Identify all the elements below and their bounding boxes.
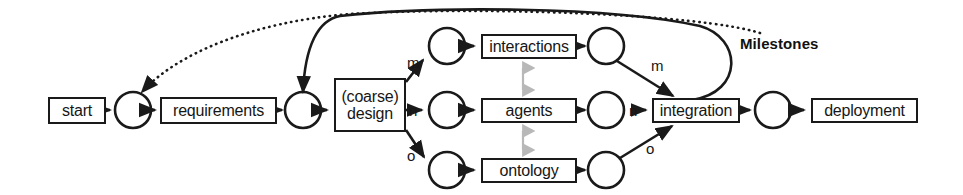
node-requirements[interactable]: requirements [160,97,277,124]
milestone-circle-after-agents [588,92,624,128]
milestone-circle-before-agents [429,92,465,128]
edge-label-agents-integration: n [629,103,637,118]
milestone-circle-after-integration [755,92,791,128]
milestone-circle-after-ontology [588,152,624,188]
node-interactions-label: interactions [489,38,568,55]
milestone-circle-after-requirements [285,92,321,128]
node-deployment[interactable]: deployment [811,98,918,123]
node-ontology[interactable]: ontology [481,158,577,183]
node-integration[interactable]: integration [652,98,740,123]
milestones-label: Milestones [740,36,819,51]
edge-label-interactions-integration: m [651,58,664,73]
node-agents-label: agents [506,102,553,119]
node-integration-label: integration [660,102,733,119]
node-start-label: start [62,102,92,119]
node-interactions[interactable]: interactions [481,34,577,59]
milestone-circle-before-ontology [429,152,465,188]
edge-label-design-agents: n [409,103,417,118]
node-design-label: (coarse) design [341,88,398,123]
process-diagram: start requirements (coarse) design inter… [0,0,963,195]
node-deployment-label: deployment [824,102,905,119]
edge-label-design-ontology: o [407,148,415,163]
milestone-circle-after-interactions [588,28,624,64]
edge-label-design-interactions: m [407,55,420,70]
node-start[interactable]: start [48,97,106,124]
node-ontology-label: ontology [500,162,559,179]
milestone-circle-before-interactions [429,28,465,64]
edge-interactions-to-integration [617,61,673,96]
node-requirements-label: requirements [173,102,264,119]
edge-label-ontology-integration: o [646,141,654,156]
node-design[interactable]: (coarse) design [334,78,406,132]
node-agents[interactable]: agents [481,98,577,123]
milestone-circle-after-start [115,92,151,128]
